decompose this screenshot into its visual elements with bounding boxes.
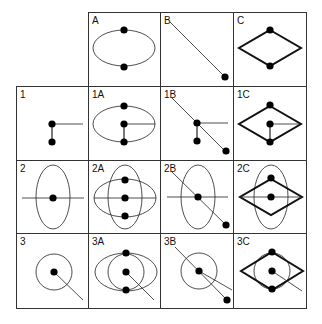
cell-1c: 1C bbox=[237, 89, 301, 146]
cell-1a: 1A bbox=[92, 89, 155, 146]
line-segment bbox=[170, 22, 225, 77]
diagram-canvas: ABC11A1B1C22A2B2C33A3B3C bbox=[0, 0, 322, 324]
node-dot bbox=[266, 26, 273, 33]
cell-3a: 3A bbox=[92, 236, 157, 300]
node-dot bbox=[222, 147, 229, 154]
cell-1: 1 bbox=[20, 89, 83, 146]
node-dot bbox=[120, 102, 127, 109]
cell-3b: 3B bbox=[164, 236, 232, 304]
node-dot bbox=[193, 119, 200, 126]
cell-label: 1A bbox=[92, 89, 105, 100]
cell-label: 3C bbox=[237, 236, 250, 247]
cell-3: 3 bbox=[20, 236, 83, 300]
cell-2c: 2C bbox=[237, 163, 302, 229]
node-dot bbox=[120, 63, 127, 70]
node-dot bbox=[120, 120, 127, 127]
cell-label: 1C bbox=[237, 89, 250, 100]
cell-2: 2 bbox=[20, 163, 84, 229]
node-dot bbox=[122, 249, 129, 256]
cell-a: A bbox=[92, 15, 155, 71]
cell-label: 3 bbox=[20, 236, 26, 247]
node-dot bbox=[266, 62, 273, 69]
cell-2a: 2A bbox=[92, 163, 156, 229]
cell-border bbox=[89, 13, 161, 87]
node-dot bbox=[121, 194, 128, 201]
node-dot bbox=[195, 267, 202, 274]
node-dot bbox=[222, 221, 229, 228]
node-dot bbox=[50, 268, 57, 275]
line-segment bbox=[199, 271, 232, 290]
node-dot bbox=[120, 138, 127, 145]
node-dot bbox=[48, 138, 55, 145]
cell-label: B bbox=[164, 15, 171, 26]
cell-label: 1 bbox=[20, 89, 26, 100]
cell-label: 2C bbox=[237, 163, 250, 174]
node-dot bbox=[122, 286, 129, 293]
cell-label: 2 bbox=[20, 163, 26, 174]
node-dot bbox=[223, 296, 230, 303]
cell-3c: 3C bbox=[237, 236, 303, 293]
cell-label: 2A bbox=[92, 163, 105, 174]
node-dot bbox=[48, 120, 55, 127]
cell-label: A bbox=[92, 15, 99, 26]
node-dot bbox=[221, 73, 228, 80]
node-dot bbox=[193, 137, 200, 144]
node-dot bbox=[267, 174, 274, 181]
cell-c: C bbox=[237, 15, 301, 70]
node-dot bbox=[49, 194, 56, 201]
cell-label: 3B bbox=[164, 236, 177, 247]
node-dot bbox=[120, 26, 127, 33]
cell-label: 3A bbox=[92, 236, 105, 247]
cell-2b: 2B bbox=[164, 163, 230, 229]
cell-b: B bbox=[164, 15, 229, 81]
cell-border bbox=[234, 13, 307, 87]
cell-label: 2B bbox=[164, 163, 177, 174]
ellipse-shape bbox=[93, 30, 155, 66]
diagram-cells: ABC11A1B1C22A2B2C33A3B3C bbox=[20, 15, 303, 304]
cell-label: 1B bbox=[164, 89, 177, 100]
cell-1b: 1B bbox=[164, 89, 230, 155]
node-dot bbox=[122, 268, 129, 275]
node-dot bbox=[268, 285, 275, 292]
node-dot bbox=[268, 267, 275, 274]
node-dot bbox=[121, 212, 128, 219]
node-dot bbox=[267, 193, 274, 200]
node-dot bbox=[121, 176, 128, 183]
line-segment bbox=[54, 272, 83, 300]
node-dot bbox=[268, 248, 275, 255]
diamond-shape bbox=[239, 30, 301, 66]
cell-label: C bbox=[237, 15, 244, 26]
node-dot bbox=[266, 120, 273, 127]
node-dot bbox=[194, 193, 201, 200]
node-dot bbox=[266, 138, 273, 145]
line-segment bbox=[126, 272, 154, 300]
node-dot bbox=[266, 101, 273, 108]
grid-lines bbox=[17, 13, 307, 309]
